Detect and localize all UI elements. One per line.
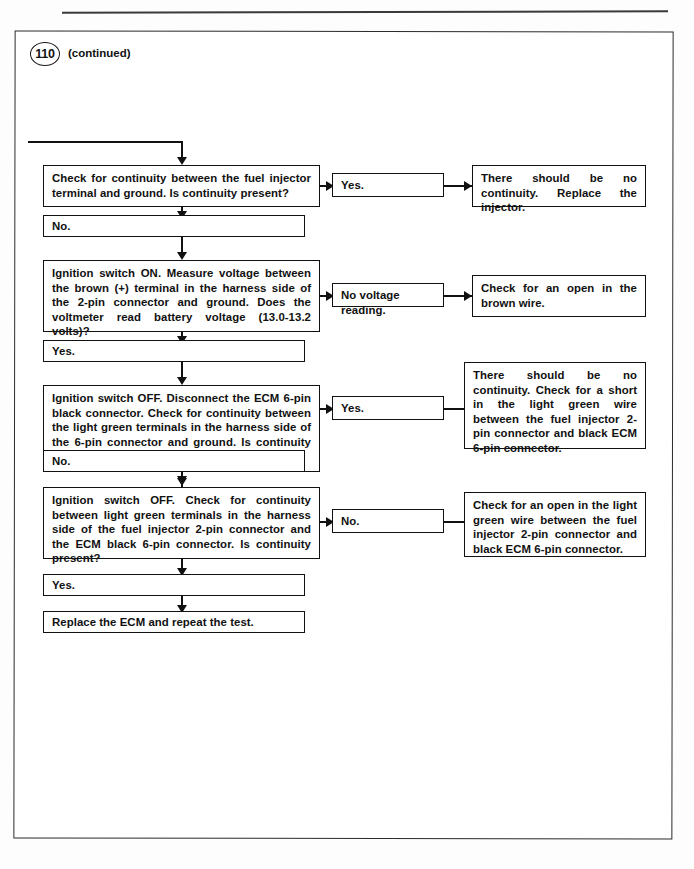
flow-line-entry-horizontal	[28, 141, 183, 143]
arrow-to-step-2-result	[464, 291, 472, 301]
document-page: 110 (continued) Check for continuity bet…	[0, 0, 694, 869]
step-4-fallthrough-label-box: Yes.	[43, 574, 305, 596]
step-2-result-box: Check for an open in the brown wire.	[472, 275, 646, 317]
step-number-badge: 110	[30, 42, 60, 66]
step-1-branch-label-box: Yes.	[332, 173, 444, 197]
arrow-into-step-1	[177, 157, 187, 165]
step-3-result-box: There should be no continuity. Check for…	[464, 362, 646, 449]
flow-line-entry-vertical	[181, 141, 183, 158]
arrow-to-step-1-result	[464, 181, 472, 191]
step-2-fallthrough-label-box: Yes.	[43, 340, 305, 362]
step-2-branch-label-box: No voltage reading.	[332, 283, 444, 307]
running-head-rule	[62, 10, 668, 13]
step-3-branch-label-box: Yes.	[332, 396, 444, 420]
step-1-fallthrough-label-box: No.	[43, 215, 305, 237]
arrow-into-step-4	[177, 478, 187, 486]
step-2-question-box: Ignition switch ON. Measure voltage betw…	[43, 260, 320, 332]
step-1-result-box: There should be no continuity. Replace t…	[472, 165, 646, 207]
step-1-question-box: Check for continuity between the fuel in…	[43, 165, 320, 207]
step-3-fallthrough-label-box: No.	[43, 450, 305, 472]
continued-label: (continued)	[68, 47, 131, 59]
conclusion-box: Replace the ECM and repeat the test.	[43, 611, 305, 633]
step-4-question-box: Ignition switch OFF. Check for continuit…	[43, 487, 320, 559]
step-4-branch-label-box: No.	[332, 509, 444, 533]
step-4-result-box: Check for an open in the light green wir…	[464, 492, 646, 557]
arrow-into-step-2	[177, 252, 187, 260]
arrow-into-step-3	[177, 377, 187, 385]
